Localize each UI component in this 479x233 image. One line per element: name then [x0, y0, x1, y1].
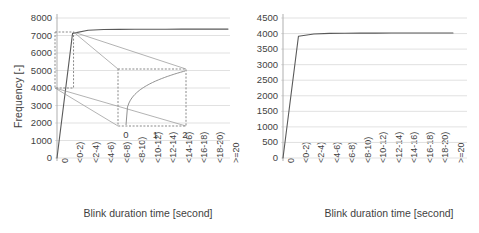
plot-area-left [0, 0, 240, 233]
inset-tick-label: 0 [116, 129, 136, 140]
chart-panel-right: 050010001500200025003000350040004500 0<0… [239, 0, 479, 233]
figure-root: Frequency [-] 01000200030004000500060007… [0, 0, 479, 233]
x-axis-title-left: Blink duration time [second] [58, 207, 238, 219]
x-axis-title-right: Blink duration time [second] [299, 207, 479, 219]
inset-tick-label: 1 [146, 129, 166, 140]
inset-tick-label: 2 [175, 129, 195, 140]
plot-area-right [239, 0, 479, 233]
chart-panel-left: Frequency [-] 01000200030004000500060007… [0, 0, 240, 233]
